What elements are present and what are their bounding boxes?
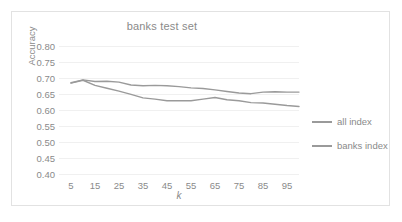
legend-color-swatch (312, 145, 332, 147)
y-tick-label: 0.65 (37, 89, 56, 100)
legend-item-label: all index (337, 116, 372, 127)
chart-container: banks test set Accuracy 0.800.750.700.65… (11, 11, 390, 206)
gridline (59, 174, 299, 175)
series-lines (59, 46, 299, 174)
y-tick-label: 0.45 (37, 153, 56, 164)
y-tick-label: 0.80 (37, 41, 56, 52)
y-tick-label: 0.70 (37, 73, 56, 84)
series-line (71, 80, 299, 106)
y-tick-label: 0.50 (37, 137, 56, 148)
series-line (71, 80, 299, 94)
chart-title: banks test set (12, 20, 312, 32)
x-axis-label: k (59, 190, 299, 201)
legend-color-swatch (312, 121, 332, 123)
legend-item[interactable]: banks index (312, 140, 388, 151)
plot-area: 0.800.750.700.650.600.550.500.450.40 515… (59, 46, 299, 174)
legend-item[interactable]: all index (312, 116, 388, 127)
y-axis-label: Accuracy (26, 16, 37, 76)
y-tick-label: 0.60 (37, 105, 56, 116)
y-tick-label: 0.55 (37, 121, 56, 132)
legend-item-label: banks index (337, 140, 388, 151)
chart-legend: all indexbanks index (312, 116, 388, 164)
y-tick-label: 0.75 (37, 57, 56, 68)
y-tick-label: 0.40 (37, 169, 56, 180)
